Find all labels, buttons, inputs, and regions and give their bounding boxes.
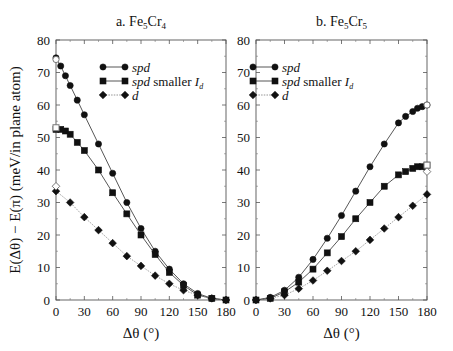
x-tick-label: 0 <box>53 304 60 319</box>
open-marker-circle <box>53 56 59 62</box>
data-point-square <box>403 169 409 175</box>
y-tick-label: 0 <box>244 293 251 308</box>
y-tick-label: 0 <box>44 293 51 308</box>
y-tick-label: 10 <box>237 260 250 275</box>
legend-label: d <box>132 88 139 103</box>
series-line-diamond <box>256 194 427 300</box>
data-point-square <box>152 252 158 258</box>
series-line-square <box>56 129 226 300</box>
panel-title: a. Fe5Cr4 <box>116 14 167 31</box>
y-tick-label: 70 <box>237 65 250 80</box>
y-tick-label: 50 <box>37 130 50 145</box>
x-tick-label: 120 <box>360 304 380 319</box>
data-point-square <box>81 148 87 154</box>
data-point-circle <box>95 141 101 147</box>
data-point-circle <box>110 170 116 176</box>
y-tick-label: 80 <box>37 33 50 48</box>
legend-marker-circle <box>250 64 256 70</box>
data-point-square <box>381 183 387 189</box>
y-tick-label: 60 <box>37 98 50 113</box>
open-marker-circle <box>424 102 430 108</box>
y-tick-label: 30 <box>37 195 50 210</box>
x-tick-label: 180 <box>216 304 236 319</box>
data-point-square <box>367 200 373 206</box>
y-tick-label: 60 <box>237 98 250 113</box>
legend-label: spd <box>282 60 301 75</box>
y-tick-label: 80 <box>237 33 250 48</box>
data-point-circle <box>381 141 387 147</box>
legend-marker-circle <box>272 64 278 70</box>
series-line-diamond <box>56 191 226 300</box>
data-point-square <box>110 190 116 196</box>
legend-marker-square <box>122 78 128 84</box>
data-point-diamond <box>323 267 331 275</box>
data-point-circle <box>74 97 80 103</box>
x-tick-label: 30 <box>78 304 91 319</box>
data-point-circle <box>310 256 316 262</box>
legend-marker-square <box>100 78 106 84</box>
legend-marker-diamond <box>271 91 279 99</box>
legend-marker-square <box>272 78 278 84</box>
data-point-circle <box>395 120 401 126</box>
legend: spdspd smaller Idd <box>99 60 204 103</box>
y-tick-label: 40 <box>237 163 250 178</box>
data-point-square <box>310 266 316 272</box>
x-tick-label: 0 <box>253 304 260 319</box>
data-point-square <box>324 250 330 256</box>
data-point-circle <box>353 188 359 194</box>
data-point-diamond <box>81 213 89 221</box>
data-point-circle <box>62 73 68 79</box>
data-point-diamond <box>151 272 159 280</box>
legend-marker-diamond <box>121 91 129 99</box>
data-point-square <box>339 234 345 240</box>
data-point-diamond <box>380 225 388 233</box>
y-tick-label: 20 <box>237 228 250 243</box>
y-tick-label: 20 <box>37 228 50 243</box>
data-point-circle <box>338 212 344 218</box>
x-axis-label: Δθ (°) <box>123 325 160 342</box>
open-marker-diamond <box>52 182 60 190</box>
data-point-circle <box>367 164 373 170</box>
data-point-square <box>296 279 302 285</box>
data-point-diamond <box>338 257 346 265</box>
legend-marker-circle <box>122 64 128 70</box>
data-point-square <box>353 216 359 222</box>
data-point-square <box>67 131 73 137</box>
x-tick-label: 30 <box>278 304 291 319</box>
data-point-square <box>74 139 80 145</box>
open-marker-square <box>53 125 59 131</box>
y-tick-label: 50 <box>237 130 250 145</box>
x-tick-label: 60 <box>307 304 320 319</box>
data-point-diamond <box>309 277 317 285</box>
data-point-circle <box>138 225 144 231</box>
x-tick-label: 120 <box>160 304 180 319</box>
data-point-square <box>124 211 130 217</box>
panel-title: b. Fe5Cr5 <box>316 14 368 31</box>
data-point-circle <box>403 113 409 119</box>
legend-marker-circle <box>100 64 106 70</box>
series-line-square <box>256 165 427 300</box>
data-point-circle <box>81 112 87 118</box>
legend: spdspd smaller Idd <box>249 60 354 103</box>
x-tick-label: 90 <box>135 304 148 319</box>
y-tick-label: 30 <box>237 195 250 210</box>
x-tick-label: 90 <box>335 304 348 319</box>
data-point-circle <box>58 63 64 69</box>
data-point-diamond <box>137 262 145 270</box>
legend-marker-square <box>250 78 256 84</box>
data-point-circle <box>124 199 130 205</box>
legend-label: d <box>282 88 289 103</box>
x-tick-label: 60 <box>106 304 119 319</box>
data-point-circle <box>67 82 73 88</box>
series-line-circle <box>256 105 427 300</box>
x-tick-label: 150 <box>188 304 208 319</box>
panel-b: b. Fe5Cr50102030405060708003060901201501… <box>237 14 437 342</box>
data-point-diamond <box>395 213 403 221</box>
data-point-square <box>396 172 402 178</box>
legend-label: spd smaller Id <box>132 74 204 91</box>
data-point-diamond <box>166 280 174 288</box>
legend-label: spd <box>132 60 151 75</box>
y-tick-label: 70 <box>37 65 50 80</box>
data-point-square <box>96 167 102 173</box>
y-axis-label: E(Δθ) − E(π) (meV/in plane atom) <box>7 66 24 273</box>
